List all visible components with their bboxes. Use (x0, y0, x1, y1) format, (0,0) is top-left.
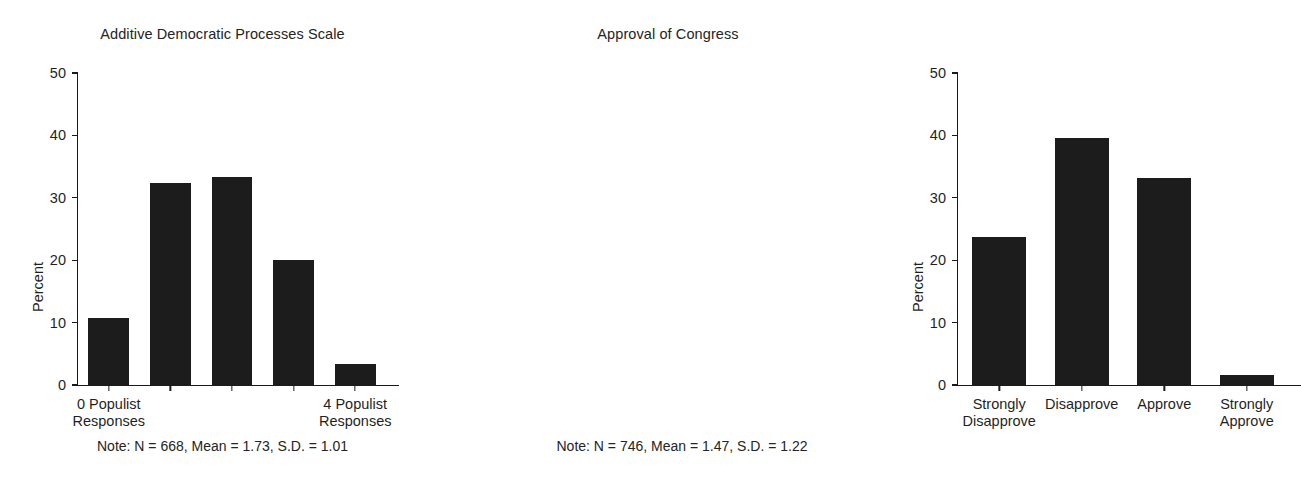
panel-title-left: Additive Democratic Processes Scale (0, 26, 445, 42)
y-tick-10: 10 (50, 315, 78, 331)
x-tick-mark (1164, 385, 1165, 391)
x-tick-mark (293, 385, 294, 391)
plot-area-left: Percent 01020304050 0 PopulistResponses4… (78, 73, 386, 385)
x-tick-label-line: Responses (73, 413, 146, 430)
x-tick-mark (231, 385, 232, 391)
panel-approval-of-congress: Approval of Congress Percent 01020304050… (445, 0, 891, 486)
y-tick-label: 20 (930, 252, 952, 268)
y-tick-label: 0 (938, 377, 952, 393)
y-tick-40: 40 (930, 127, 958, 143)
y-tick-label: 40 (50, 127, 72, 143)
bar-3 (273, 260, 314, 385)
y-axis-label-left: Percent (30, 262, 46, 312)
x-tick-label: StronglyApprove (1220, 396, 1274, 430)
y-tick-label: 50 (50, 65, 72, 81)
x-tick-mark (1081, 385, 1082, 391)
y-tick-label: 50 (930, 65, 952, 81)
bar-approve (1137, 178, 1191, 385)
panel-additive-democratic-processes-scale: Additive Democratic Processes Scale Perc… (0, 0, 445, 486)
bar-strongly-disapprove (972, 237, 1026, 385)
note-right: Note: N = 746, Mean = 1.47, S.D. = 1.22 (459, 438, 905, 454)
x-tick-label: 4 PopulistResponses (319, 396, 392, 430)
x-tick-label: Approve (1137, 396, 1191, 413)
y-tick-label: 10 (50, 315, 72, 331)
x-tick-mark (108, 385, 109, 391)
x-tick-label-line: Responses (319, 413, 392, 430)
bar-strongly-approve (1220, 375, 1274, 385)
y-tick-20: 20 (930, 252, 958, 268)
x-tick-mark (999, 385, 1000, 391)
y-tick-0: 0 (938, 377, 958, 393)
x-tick-label: StronglyDisapprove (963, 396, 1036, 430)
y-tick-50: 50 (930, 65, 958, 81)
y-tick-0: 0 (58, 377, 78, 393)
y-tick-30: 30 (50, 190, 78, 206)
x-tick-label-line: Strongly (1220, 396, 1274, 413)
y-tick-50: 50 (50, 65, 78, 81)
panel-title-right: Approval of Congress (445, 26, 891, 42)
x-tick-mark (355, 385, 356, 391)
x-tick-label-line: Strongly (963, 396, 1036, 413)
note-left: Note: N = 668, Mean = 1.73, S.D. = 1.01 (0, 438, 445, 454)
y-tick-label: 10 (930, 315, 952, 331)
y-tick-label: 40 (930, 127, 952, 143)
bar-4-populist-responses (335, 364, 376, 385)
x-tick-label-line: 0 Populist (73, 396, 146, 413)
bar-2 (212, 177, 253, 385)
x-tick-mark (170, 385, 171, 391)
bar-group-right: StronglyDisapproveDisapproveApproveStron… (958, 73, 1288, 385)
y-tick-label: 0 (58, 377, 72, 393)
y-tick-10: 10 (930, 315, 958, 331)
y-tick-20: 20 (50, 252, 78, 268)
bar-0-populist-responses (88, 318, 129, 385)
y-tick-label: 30 (930, 190, 952, 206)
x-tick-label-line: 4 Populist (319, 396, 392, 413)
y-tick-40: 40 (50, 127, 78, 143)
x-tick-label-line: Approve (1137, 396, 1191, 413)
x-tick-label-line: Approve (1220, 413, 1274, 430)
x-tick-label-line: Disapprove (1045, 396, 1118, 413)
x-tick-label: Disapprove (1045, 396, 1118, 413)
bar-group-left: 0 PopulistResponses4 PopulistResponses (78, 73, 386, 385)
x-tick-mark (1246, 385, 1247, 391)
bar-disapprove (1055, 138, 1109, 385)
y-tick-label: 30 (50, 190, 72, 206)
y-axis-label-right: Percent (910, 262, 926, 312)
bar-1 (150, 183, 191, 385)
x-tick-label: 0 PopulistResponses (73, 396, 146, 430)
plot-area-right: Percent 01020304050 StronglyDisapproveDi… (958, 73, 1288, 385)
y-tick-label: 20 (50, 252, 72, 268)
y-tick-30: 30 (930, 190, 958, 206)
x-tick-label-line: Disapprove (963, 413, 1036, 430)
